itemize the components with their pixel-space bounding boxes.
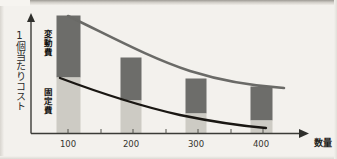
bar-group-200 — [121, 58, 142, 134]
total-cost-curve — [68, 16, 284, 88]
axis-y — [27, 13, 35, 134]
cost-per-unit-chart — [0, 0, 337, 159]
bar-fixed-100 — [57, 78, 81, 134]
axis-x-title: 数量 — [314, 136, 332, 149]
bar-variable-200 — [121, 58, 142, 101]
bar-variable-400 — [251, 87, 273, 121]
chart-page: 1個当たりコスト 変動費 固定費 100 200 300 400 数量 — [0, 0, 337, 159]
bar-variable-100 — [57, 16, 81, 78]
fixed-cost-curve — [60, 78, 266, 128]
series-label-variable-cost: 変動費 — [42, 30, 51, 57]
bar-group-300 — [186, 79, 207, 134]
axis-y-title: 1個当たりコスト — [14, 30, 24, 111]
x-tick-label-300: 300 — [181, 139, 211, 149]
x-tick-label-100: 100 — [53, 139, 83, 149]
series-label-fixed-cost: 固定費 — [42, 88, 51, 115]
x-tick-label-200: 200 — [116, 139, 146, 149]
x-tick-label-400: 400 — [246, 139, 276, 149]
bar-variable-300 — [186, 79, 207, 114]
bar-group-100 — [57, 16, 81, 134]
